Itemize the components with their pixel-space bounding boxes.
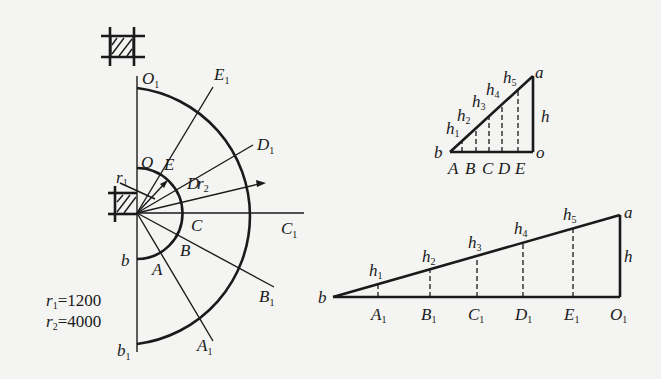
svg-text:B1: B1 [259, 287, 274, 308]
radii-notes: r1=1200 r2=4000 [46, 291, 101, 332]
svg-text:h: h [624, 247, 633, 266]
svg-text:A1: A1 [196, 336, 212, 357]
svg-text:D: D [497, 159, 511, 178]
svg-text:O: O [141, 153, 153, 172]
svg-text:E: E [514, 159, 526, 178]
svg-text:a: a [535, 63, 544, 82]
svg-text:r2=4000: r2=4000 [46, 312, 101, 332]
svg-text:b1: b1 [117, 341, 131, 362]
svg-text:r1=1200: r1=1200 [46, 291, 101, 311]
svg-text:h1: h1 [369, 261, 383, 281]
small-triangle: a b o h A B C D E h1 h2 h3 h4 h5 [434, 63, 550, 178]
svg-text:h2: h2 [457, 106, 471, 126]
svg-text:E1: E1 [563, 305, 579, 325]
svg-text:A1: A1 [370, 305, 386, 325]
svg-text:h5: h5 [503, 68, 517, 88]
svg-text:h2: h2 [422, 247, 436, 267]
svg-text:B: B [180, 241, 191, 260]
svg-text:D1: D1 [256, 135, 274, 156]
svg-text:A: A [151, 260, 163, 279]
svg-text:B1: B1 [421, 305, 436, 325]
svg-text:A: A [447, 159, 459, 178]
svg-text:O1: O1 [142, 69, 159, 90]
diagram-canvas: O1 E1 D1 C1 B1 A1 b1 O E D C B A b r1 r2… [0, 0, 661, 379]
svg-text:r1: r1 [116, 168, 128, 188]
svg-text:C1: C1 [468, 305, 484, 325]
svg-text:b: b [434, 143, 443, 162]
svg-text:C1: C1 [281, 219, 297, 240]
svg-text:h3: h3 [472, 92, 486, 112]
svg-text:r2: r2 [197, 174, 209, 194]
large-triangle: a b h A1 B1 C1 D1 E1 O1 h1 h2 h3 h4 h5 [318, 203, 633, 325]
svg-text:D1: D1 [514, 305, 532, 325]
svg-text:E: E [163, 155, 175, 174]
svg-text:B: B [465, 159, 476, 178]
wall-section-symbol-top [101, 27, 145, 66]
svg-text:b: b [121, 251, 130, 270]
svg-text:a: a [624, 203, 633, 222]
svg-text:E1: E1 [213, 65, 229, 86]
svg-text:o: o [536, 143, 545, 162]
svg-text:h4: h4 [486, 80, 500, 100]
svg-text:C: C [482, 159, 494, 178]
svg-text:O1: O1 [610, 305, 627, 325]
svg-text:b: b [318, 288, 327, 307]
svg-text:C: C [191, 216, 203, 235]
svg-text:h4: h4 [514, 219, 528, 239]
svg-text:h5: h5 [563, 205, 577, 225]
svg-text:h3: h3 [468, 233, 482, 253]
wall-section-symbol-left [108, 186, 137, 222]
svg-text:h: h [541, 107, 550, 126]
